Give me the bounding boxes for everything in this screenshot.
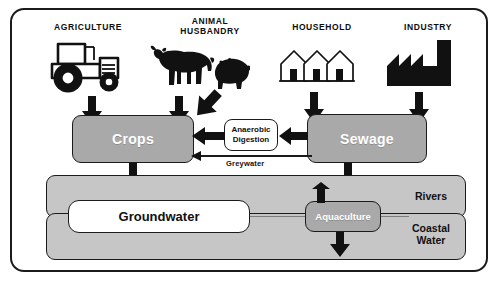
edge-label-greywater: Greywater [226,159,265,168]
node-groundwater[interactable]: Groundwater [68,200,250,233]
node-anaerobic-digestion-label: Anaerobic Digestion [231,125,270,145]
greywater-arrowhead [191,151,201,161]
arrow-aquaculture-to-rivers [311,182,331,204]
node-anaerobic-digestion[interactable]: Anaerobic Digestion [224,119,278,151]
cow-and-pig-icon [150,44,250,92]
source-label-agriculture: AGRICULTURE [33,22,143,32]
tractor-icon [42,38,132,94]
node-crops[interactable]: Crops [72,115,194,163]
arrow-sewage-to-anaerobic-digestion [279,127,309,145]
node-sewage-label: Sewage [340,131,394,147]
node-crops-label: Crops [112,131,154,147]
arrow-aquaculture-to-coastal-water [329,232,351,258]
source-label-animal-husbandry: ANIMAL HUSBANDRY [155,16,265,36]
greywater-line [198,155,312,157]
node-groundwater-label: Groundwater [119,209,200,224]
node-aquaculture[interactable]: Aquaculture [305,201,381,232]
band-rivers-label: Rivers [400,190,462,202]
three-houses-icon [278,44,356,88]
factory-icon [385,38,465,90]
diagram-canvas: AGRICULTURE ANIMAL HUSBANDRY HOUSEHOLD I… [0,0,503,283]
source-label-household: HOUSEHOLD [272,22,372,32]
arrow-anaerobic-digestion-to-crops [192,127,226,145]
node-sewage[interactable]: Sewage [307,114,427,163]
source-label-industry: INDUSTRY [378,22,478,32]
groundwater-aquaculture-connector [250,216,312,217]
node-aquaculture-label: Aquaculture [315,211,370,222]
band-coastal-water-label: Coastal Water [400,222,462,246]
aquaculture-rivers-connector [377,216,409,217]
arrow-animal-husbandry-diagonal [190,88,226,122]
